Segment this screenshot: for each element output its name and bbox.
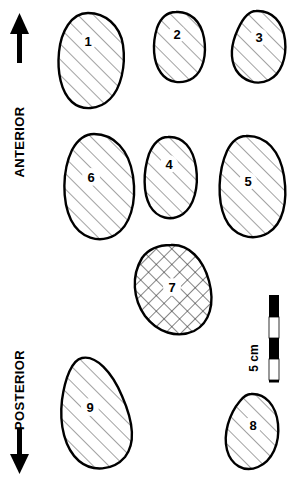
anatomical-shape-diagram: ANTERIOR POSTERIOR 1 2 3 6 4 (0, 0, 294, 486)
shape-label-3: 3 (255, 30, 262, 45)
shape-label-1: 1 (84, 34, 91, 49)
shape-outline-1 (59, 13, 124, 108)
shape-outline-6 (64, 134, 134, 239)
diagram-canvas: ANTERIOR POSTERIOR 1 2 3 6 4 (0, 0, 294, 486)
shape-group-6: 6 (64, 134, 134, 239)
shape-group-2: 2 (154, 12, 205, 82)
anterior-label: ANTERIOR (12, 106, 27, 177)
shape-label-9: 9 (86, 400, 93, 415)
shape-group-1: 1 (59, 13, 124, 108)
shape-outline-2 (154, 12, 205, 82)
shape-label-5: 5 (244, 174, 251, 189)
shape-group-4: 4 (145, 137, 197, 218)
scale-bar-label: 5 cm (247, 344, 261, 371)
shape-outline-4 (145, 137, 197, 218)
shape-label-6: 6 (87, 170, 94, 185)
posterior-label: POSTERIOR (12, 350, 27, 430)
shape-group-5: 5 (220, 136, 286, 237)
scale-bar (269, 295, 279, 383)
shape-label-7: 7 (168, 280, 175, 295)
shape-label-8: 8 (249, 418, 256, 433)
shape-label-2: 2 (173, 27, 180, 42)
shape-label-4: 4 (165, 157, 173, 172)
